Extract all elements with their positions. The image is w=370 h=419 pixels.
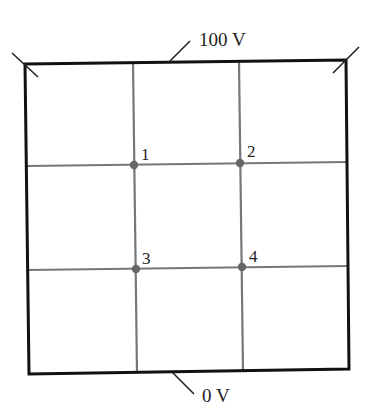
diagram-canvas: 100 V 0 V 1 2 3 4 — [0, 0, 370, 419]
point-2-label: 2 — [247, 142, 256, 161]
point-3-label: 3 — [142, 249, 151, 268]
point-2-dot — [236, 159, 244, 167]
vertical-grid-line-1 — [133, 63, 137, 373]
horizontal-grid-line-1 — [27, 162, 347, 166]
top-potential-leader — [169, 41, 190, 62]
point-4-dot — [238, 263, 246, 271]
point-1-label: 1 — [141, 145, 150, 164]
grid-lines — [27, 61, 348, 373]
potential-grid-diagram: 100 V 0 V 1 2 3 4 — [0, 0, 370, 419]
point-1-dot — [130, 161, 138, 169]
vertical-grid-line-2 — [239, 61, 243, 371]
boundary-box — [25, 60, 349, 374]
point-3-dot — [132, 265, 140, 273]
horizontal-grid-line-2 — [28, 266, 348, 270]
top-potential-label: 100 V — [199, 29, 246, 50]
point-4-label: 4 — [249, 247, 258, 266]
bottom-potential-label: 0 V — [202, 385, 230, 406]
bottom-potential-leader — [172, 372, 194, 394]
